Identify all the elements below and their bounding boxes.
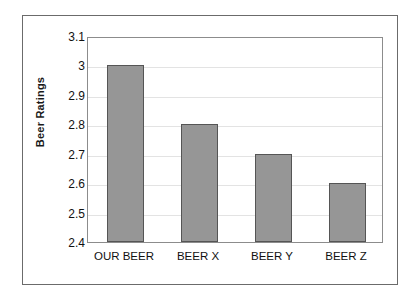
y-axis-tick-label: 2.8: [47, 119, 85, 131]
y-axis-tick-label: 2.4: [47, 237, 85, 249]
x-axis-tick: [236, 242, 237, 243]
x-axis-tick-label: BEER Z: [309, 248, 383, 264]
y-axis-tick-label: 2.9: [47, 90, 85, 102]
x-axis-tick: [310, 242, 311, 243]
bar: [255, 154, 292, 242]
x-axis-tick-label: OUR BEER: [87, 248, 161, 264]
y-axis-title: Beer Ratings: [34, 52, 46, 172]
x-axis-tick-labels: OUR BEERBEER XBEER YBEER Z: [87, 248, 383, 268]
y-axis-tick-labels: 3.132.92.82.72.62.52.4: [47, 37, 85, 245]
y-axis-tick-label: 2.5: [47, 208, 85, 220]
plot-area: [87, 37, 383, 243]
bar: [181, 124, 218, 242]
bar: [107, 65, 144, 242]
bar: [329, 183, 366, 242]
y-axis-tick-label: 3.1: [47, 31, 85, 43]
y-axis-tick-label: 2.6: [47, 178, 85, 190]
y-axis-tick-label: 3: [47, 60, 85, 72]
x-axis-tick-label: BEER X: [161, 248, 235, 264]
x-axis-tick: [162, 242, 163, 243]
y-axis-tick-label: 2.7: [47, 149, 85, 161]
x-axis-tick-label: BEER Y: [235, 248, 309, 264]
chart-figure: Beer Ratings 3.132.92.82.72.62.52.4 OUR …: [22, 15, 398, 285]
bars-group: [88, 38, 382, 242]
